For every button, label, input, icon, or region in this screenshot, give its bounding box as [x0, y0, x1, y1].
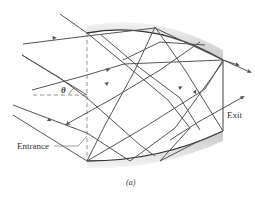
entrance-leader: [54, 136, 87, 146]
ray-arrows: [47, 35, 198, 126]
ray-8: [65, 42, 200, 125]
exit-label: Exit: [227, 111, 242, 120]
ray-cross-a: [100, 34, 200, 130]
entrance-label: Entrance: [17, 142, 49, 151]
waveguide-diagram: [0, 0, 255, 199]
angle-arc: [69, 88, 74, 94]
angle-theta-label: θ: [61, 86, 66, 95]
figure-caption: (a): [126, 179, 135, 187]
